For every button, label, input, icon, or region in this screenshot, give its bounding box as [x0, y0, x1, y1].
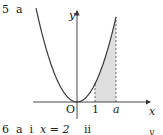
x-axis-label: x [149, 106, 155, 117]
tick-label-1: 1 [92, 104, 99, 115]
parabola-graph [0, 0, 163, 135]
next-subpart-label: ii [84, 124, 91, 135]
y-axis-label: y [69, 10, 75, 21]
question-subpart: i [30, 123, 34, 135]
tick-label-a: a [113, 104, 120, 115]
answer: x = 2 [40, 123, 69, 135]
next-graph-y-label: y [149, 127, 154, 135]
question-part: a [16, 123, 23, 135]
origin-label: O [66, 104, 75, 115]
question-6-label: 6 a i x = 2 [2, 124, 70, 135]
question-number: 6 [2, 123, 9, 135]
